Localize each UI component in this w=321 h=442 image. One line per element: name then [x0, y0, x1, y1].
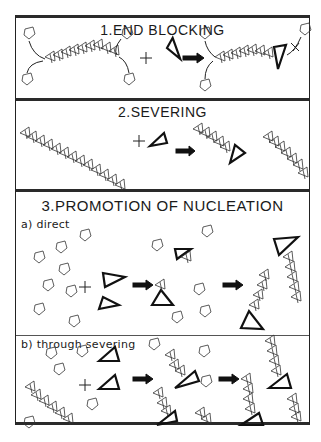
arrow-3b-1: [133, 374, 153, 384]
capped-end-protein: [274, 45, 286, 69]
plus-sign-2: [133, 135, 145, 147]
severed-fragment-1: [193, 123, 245, 163]
end-blocking-filament-left: [45, 39, 119, 63]
severing-protein: [150, 133, 167, 146]
end-blocking-monomers-left: [22, 27, 135, 85]
diagram-artwork: [15, 15, 310, 425]
end-blocking-filament-right: [200, 23, 311, 91]
nucleating-proteins-direct: [99, 273, 125, 309]
grown-filaments-direct: [241, 237, 301, 329]
blocked-arrow: [287, 37, 301, 55]
nucleus-direct-1: [152, 249, 191, 305]
plus-sign-3a: [79, 281, 91, 293]
severed-nuclei-3b: [153, 349, 211, 425]
arrow-2: [176, 146, 195, 156]
arrow-1: [183, 53, 204, 63]
figure-frame: 1.END BLOCKING 2.SEVERING 3.PROMOTION OF…: [15, 15, 310, 425]
grown-filaments-3b: [241, 335, 301, 425]
severed-fragment-2: [263, 131, 308, 179]
plus-sign-1: [140, 52, 152, 64]
arrow-3b-2: [219, 374, 239, 384]
capping-protein-1: [164, 38, 184, 62]
severing-proteins-3b: [99, 347, 119, 389]
arrow-3a-1: [133, 280, 153, 290]
plus-sign-3b: [79, 379, 91, 391]
severing-filament-long: [20, 127, 125, 191]
arrow-3a-2: [223, 280, 243, 290]
short-filament-3b: [25, 381, 73, 425]
